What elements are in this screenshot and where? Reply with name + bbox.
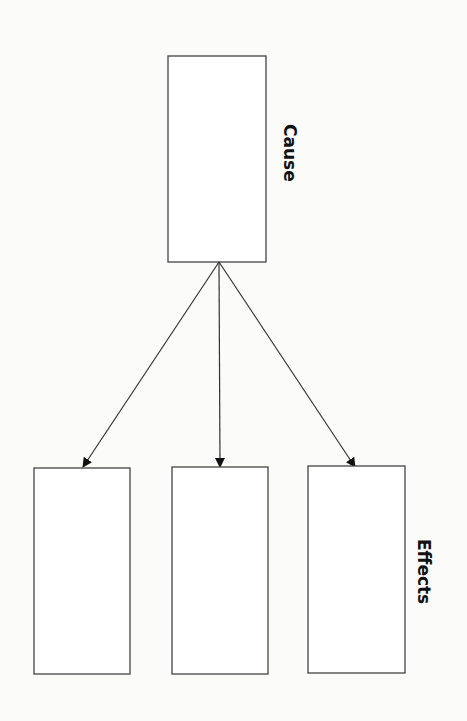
- effect-box-1: [34, 468, 130, 674]
- effects-label: Effects: [414, 539, 434, 603]
- arrow-to-effect-2: [219, 262, 220, 467]
- arrow-to-effect-3: [219, 262, 355, 467]
- effect-box-2: [172, 467, 268, 674]
- arrow-to-effect-1: [83, 262, 219, 467]
- cause-label: Cause: [280, 124, 300, 176]
- effect-box-3: [308, 466, 405, 673]
- diagram-canvas: [0, 0, 467, 721]
- cause-box: [168, 56, 266, 262]
